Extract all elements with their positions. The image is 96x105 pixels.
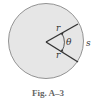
radius-label-top: r: [56, 24, 60, 33]
figure-caption: Fig. A–3: [0, 88, 96, 98]
circle: [9, 4, 84, 79]
circle-sector-diagram: [0, 0, 96, 82]
arc-label-s: s: [86, 39, 91, 48]
angle-label-theta: θ: [66, 38, 71, 47]
radius-label-bottom: r: [56, 51, 60, 60]
